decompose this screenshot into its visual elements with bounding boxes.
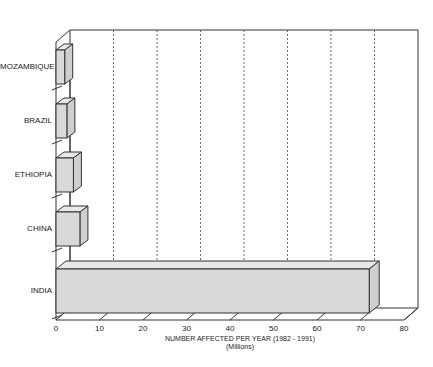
y-tick (52, 86, 62, 90)
category-label: INDIA (0, 286, 52, 295)
bar-side-face (80, 206, 88, 246)
y-tick (52, 140, 62, 144)
x-tick-label: 30 (177, 324, 197, 333)
bar-front-face (56, 212, 80, 246)
x-tick-label: 70 (351, 324, 371, 333)
bar-side-face (73, 152, 81, 192)
x-axis-title: NUMBER AFFECTED PER YEAR (1982 - 1991) (90, 335, 390, 342)
x-tick-label: 0 (46, 324, 66, 333)
x-tick-label: 10 (90, 324, 110, 333)
y-tick (52, 248, 62, 252)
left-wall-top (56, 30, 70, 42)
bar-side-face (369, 261, 379, 313)
category-label: ETHIOPIA (0, 170, 52, 179)
bar-front-face (56, 269, 369, 313)
x-tick-label: 80 (394, 324, 414, 333)
bar-side-face (65, 44, 73, 84)
category-label: MOZAMBIQUE (0, 62, 52, 71)
bar-side-face (67, 98, 75, 138)
bar-chart-3d (0, 0, 433, 367)
y-tick (52, 315, 62, 319)
y-tick (52, 194, 62, 198)
tick-diagonal (404, 308, 418, 320)
category-label: BRAZIL (0, 116, 52, 125)
bar-front-face (56, 50, 65, 84)
x-axis-subtitle: (Millions) (90, 343, 390, 350)
x-tick-label: 60 (307, 324, 327, 333)
bar-front-face (56, 158, 73, 192)
bar-top-face (56, 261, 379, 269)
x-tick-label: 20 (133, 324, 153, 333)
bar-front-face (56, 104, 67, 138)
category-label: CHINA (0, 224, 52, 233)
x-tick-label: 40 (220, 324, 240, 333)
x-tick-label: 50 (264, 324, 284, 333)
